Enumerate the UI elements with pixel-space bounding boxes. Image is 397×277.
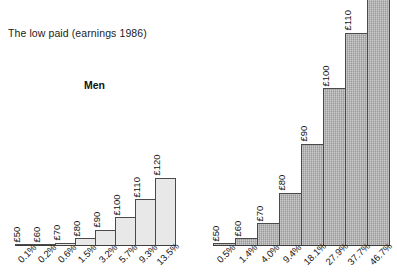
x-tick: 0.1%: [15, 247, 35, 277]
bar-value-label: £90: [298, 126, 308, 145]
bar-value-label: £100: [320, 65, 330, 89]
x-tick: 0.6%: [55, 247, 75, 277]
bar[interactable]: £100: [323, 88, 346, 246]
x-tick: 37.7%: [346, 247, 368, 277]
x-tick: 4.0%: [257, 247, 279, 277]
bar-value-label: £120: [151, 155, 161, 179]
x-tick: 27.9%: [324, 247, 346, 277]
bar-value-label: £50: [210, 225, 220, 244]
bar-value-label: £90: [91, 212, 101, 231]
x-tick: 18.1%: [302, 247, 324, 277]
bar-value-label: £80: [71, 221, 81, 240]
bar[interactable]: £130: [367, 0, 390, 246]
bar[interactable]: £110: [345, 33, 368, 246]
bar-value-label: £60: [232, 220, 242, 239]
x-tick: 1.4%: [235, 247, 257, 277]
bar[interactable]: £90: [301, 144, 324, 246]
chart-figure: The low paid (earnings 1986) Men £50 £60…: [0, 0, 397, 277]
bar-value-label: £60: [31, 226, 41, 245]
bars-men: £50 £60 £70 £80 £90 £100 £110 £120: [15, 10, 176, 246]
bar[interactable]: £70: [257, 223, 280, 246]
x-tick: 9.3%: [136, 247, 156, 277]
x-tick: 0.2%: [35, 247, 55, 277]
x-tick-labels-women: 0.5% 1.4% 4.0% 9.4% 18.1% 27.9% 37.7% 46…: [213, 247, 390, 277]
bar-value-label: £110: [131, 177, 141, 200]
x-tick: 9.4%: [279, 247, 301, 277]
bar[interactable]: £120: [155, 178, 176, 246]
bar[interactable]: £110: [135, 199, 156, 246]
x-tick: 13.5%: [156, 247, 176, 277]
x-tick: 3.2%: [96, 247, 116, 277]
bar-value-label: £110: [342, 10, 352, 33]
x-tick: 0.5%: [213, 247, 235, 277]
x-tick: 1.5%: [75, 247, 95, 277]
x-tick: 46.7%: [368, 247, 390, 277]
bars-women: £50 £60 £70 £80 £90 £100 £110 £130: [213, 0, 390, 246]
panel-men: Men £50 £60 £70 £80 £90 £100 £110: [0, 0, 200, 277]
bar[interactable]: £80: [279, 193, 302, 246]
bar-value-label: £70: [254, 206, 264, 225]
x-tick-labels-men: 0.1% 0.2% 0.6% 1.5% 3.2% 5.7% 9.3% 13.5%: [15, 247, 176, 277]
bar-value-label: £70: [51, 225, 61, 244]
bar-value-label: £80: [276, 175, 286, 194]
bar-value-label: £50: [11, 226, 21, 245]
x-tick: 5.7%: [116, 247, 136, 277]
bar-value-label: £100: [111, 194, 121, 218]
